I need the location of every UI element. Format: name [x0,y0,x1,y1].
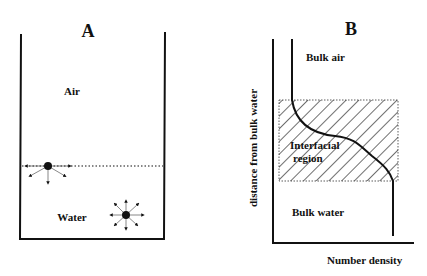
x-axis-label: Number density [327,254,403,266]
figure: A Air Water B Bulk air [0,0,427,276]
surface-molecule-icon [26,162,70,183]
interfacial-label: Interfacial [290,139,339,151]
air-label: Air [64,85,80,97]
panel-a: A Air Water [20,21,165,239]
bulk-water-label: Bulk water [292,206,344,218]
bulk-molecule-icon [111,201,143,229]
beaker [20,32,165,239]
panel-b-title: B [345,19,357,39]
y-axis-label: distance from bulk water [247,89,259,207]
region-label: region [293,152,323,164]
water-label: Water [57,211,86,223]
panel-a-title: A [82,21,95,41]
panel-b: B Bulk air Interfacial region Bulk water… [247,19,414,266]
bulk-air-label: Bulk air [306,51,345,63]
